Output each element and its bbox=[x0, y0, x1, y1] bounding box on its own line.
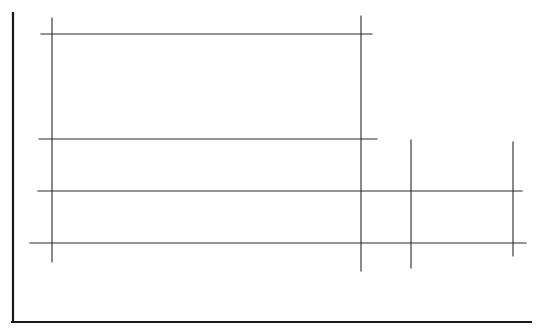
horizontal-lines bbox=[30, 34, 526, 243]
axes bbox=[12, 13, 531, 322]
line-diagram bbox=[0, 0, 540, 331]
vertical-lines bbox=[52, 16, 513, 271]
